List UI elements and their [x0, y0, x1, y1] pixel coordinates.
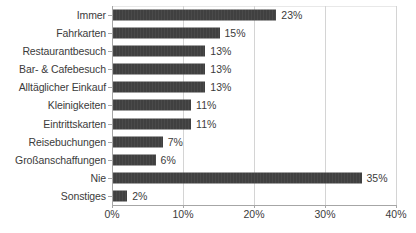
bar [113, 172, 362, 183]
bar-value-label: 6% [161, 154, 176, 165]
bar-value-label: 11% [196, 100, 216, 111]
bar [113, 100, 191, 111]
y-axis-tick-mark [108, 196, 112, 197]
bar-category-label: Alltäglicher Einkauf [0, 81, 106, 93]
bar-value-label: 13% [210, 64, 231, 75]
y-axis-tick-mark [108, 87, 112, 88]
bar-category-label: Reisebuchungen [0, 136, 106, 148]
bar [113, 46, 205, 57]
bar-value-label: 13% [210, 82, 231, 93]
bar-value-label: 7% [168, 136, 183, 147]
bar [113, 136, 163, 147]
bar [113, 190, 127, 201]
bar [113, 118, 191, 129]
bar-and-value: 11% [113, 118, 216, 129]
bar-and-value: 6% [113, 154, 176, 165]
bar-category-label: Kleinigkeiten [0, 99, 106, 111]
bar-and-value: 7% [113, 136, 183, 147]
bar-and-value: 13% [113, 64, 231, 75]
bar-category-label: Immer [0, 9, 106, 21]
y-axis-tick-mark [108, 105, 112, 106]
x-axis-tick-label: 20% [243, 208, 264, 220]
x-axis-tick-label: 40% [385, 208, 406, 220]
bar-value-label: 15% [225, 28, 246, 39]
y-axis-tick-mark [108, 178, 112, 179]
x-axis-tick-labels: 0%10%20%30%40% [0, 208, 416, 228]
bar [113, 64, 205, 75]
bar-category-label: Restaurantbesuch [0, 45, 106, 57]
bar-value-label: 13% [210, 46, 231, 57]
y-axis-tick-mark [108, 69, 112, 70]
y-axis-tick-mark [108, 124, 112, 125]
bar-and-value: 23% [113, 10, 302, 21]
bar [113, 28, 220, 39]
y-axis-tick-mark [108, 15, 112, 16]
bar-row: Großanschaffungen6% [0, 151, 416, 169]
bar-value-label: 23% [281, 10, 302, 21]
bar-row: Eintrittskarten11% [0, 114, 416, 132]
bar-value-label: 11% [196, 118, 216, 129]
bar-category-label: Nie [0, 172, 106, 184]
bar-row: Kleinigkeiten11% [0, 96, 416, 114]
bar-and-value: 13% [113, 82, 231, 93]
bar-category-label: Großanschaffungen [0, 154, 106, 166]
bar [113, 10, 276, 21]
y-axis-tick-mark [108, 51, 112, 52]
bar-row: Alltäglicher Einkauf13% [0, 78, 416, 96]
bar-row: Bar- & Cafebesuch13% [0, 60, 416, 78]
x-axis-tick-label: 10% [172, 208, 193, 220]
bar-row: Restaurantbesuch13% [0, 42, 416, 60]
bar-value-label: 2% [132, 190, 147, 201]
bar-and-value: 13% [113, 46, 231, 57]
bar-and-value: 2% [113, 190, 147, 201]
bar-value-label: 35% [367, 172, 388, 183]
y-axis-tick-mark [108, 33, 112, 34]
bar-chart: Immer23%Fahrkarten15%Restaurantbesuch13%… [0, 0, 416, 233]
bar-and-value: 35% [113, 172, 388, 183]
x-axis-tick-label: 0% [104, 208, 119, 220]
x-axis-tick-label: 30% [314, 208, 335, 220]
bar-and-value: 15% [113, 28, 246, 39]
bar-category-label: Sonstiges [0, 190, 106, 202]
bar-row: Sonstiges2% [0, 187, 416, 205]
bar-category-label: Eintrittskarten [0, 118, 106, 130]
bar-row: Immer23% [0, 6, 416, 24]
bar [113, 82, 205, 93]
bar-row: Reisebuchungen7% [0, 133, 416, 151]
bar-rows: Immer23%Fahrkarten15%Restaurantbesuch13%… [0, 6, 416, 205]
bar [113, 154, 156, 165]
bar-row: Fahrkarten15% [0, 24, 416, 42]
y-axis-tick-mark [108, 160, 112, 161]
y-axis-tick-mark [108, 142, 112, 143]
bar-category-label: Bar- & Cafebesuch [0, 63, 106, 75]
bar-category-label: Fahrkarten [0, 27, 106, 39]
bar-row: Nie35% [0, 169, 416, 187]
bar-and-value: 11% [113, 100, 216, 111]
